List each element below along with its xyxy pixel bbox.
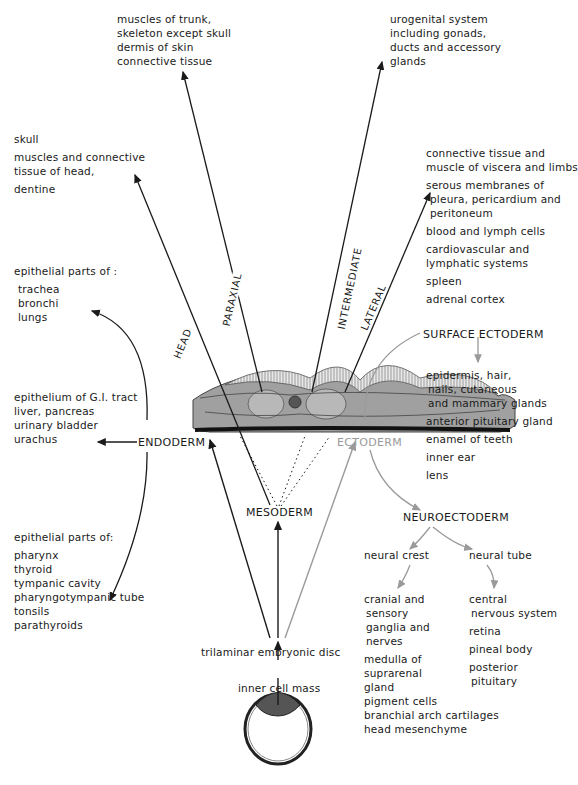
inner-cell-mass-label: inner cell mass — [238, 681, 320, 695]
endoderm-gut-derivatives: epithelium of G.I. tract liver, pancreas… — [14, 390, 138, 446]
ectoderm-label: ECTODERM — [337, 436, 402, 449]
neural-tube-label: neural tube — [469, 548, 532, 562]
intermediate-derivatives: urogenital system including gonads, duct… — [390, 12, 501, 68]
endoderm-label: ENDODERM — [138, 436, 205, 449]
lateral-mesoderm-derivatives: connective tissue and muscle of viscera … — [426, 146, 578, 306]
surface-ectoderm-label: SURFACE ECTODERM — [423, 328, 544, 341]
neuroectoderm-label: NEUROECTODERM — [403, 511, 509, 524]
neural-crest-label: neural crest — [364, 548, 429, 562]
neural-tube-derivatives: central nervous system retina pineal bod… — [469, 592, 557, 688]
endoderm-pharyngeal-derivatives: epithelial parts of: pharynx thyroid tym… — [14, 530, 144, 632]
paraxial-derivatives: muscles of trunk, skeleton except skull … — [117, 12, 231, 68]
surface-ectoderm-derivatives: epidermis, hair, nails, cutaneous and ma… — [426, 368, 553, 482]
head-mesoderm-derivatives: skull muscles and connective tissue of h… — [14, 132, 145, 196]
mesoderm-label: MESODERM — [246, 506, 313, 519]
endoderm-respiratory-derivatives: epithelial parts of : trachea bronchi lu… — [14, 264, 117, 324]
trilaminar-disc-label: trilaminar embryonic disc — [201, 645, 340, 659]
